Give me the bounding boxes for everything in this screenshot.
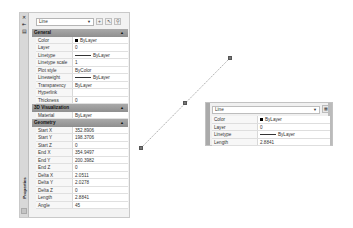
chevron-down-icon: ▼ [313, 107, 317, 113]
prop-row-linetype[interactable]: LinetypeByLayer [36, 52, 128, 60]
palette-settings-icon[interactable] [21, 208, 27, 214]
prop-value: 2.8841 [73, 194, 128, 201]
prop-row-start-x[interactable]: Start X352.8906 [36, 127, 128, 135]
prop-key: Start X [36, 127, 73, 134]
prop-row-material[interactable]: MaterialByLayer [36, 112, 128, 120]
prop-row-end-x[interactable]: End X354.9497 [36, 149, 128, 157]
line-midpoint-grip[interactable] [183, 101, 187, 105]
prop-value: 0 [73, 164, 128, 171]
prop-key: Plot style [36, 67, 73, 74]
lineweight-preview [75, 77, 91, 78]
prop-row-angle[interactable]: Angle45 [36, 202, 128, 210]
prop-row-hyperlink[interactable]: Hyperlink [36, 89, 128, 97]
prop-value: 352.8906 [73, 127, 128, 134]
quick-object-type-value: Line [215, 107, 224, 112]
prop-value: 2.0511 [73, 172, 128, 179]
prop-key: Delta Y [36, 179, 73, 186]
prop-key: End Y [36, 157, 73, 164]
collapse-icon: ▲ [120, 29, 124, 37]
prop-key: End Z [36, 164, 73, 171]
prop-value: 0 [73, 44, 128, 51]
quick-row-color[interactable]: ColorByLayer [212, 116, 330, 124]
prop-value: ByLayer [93, 75, 110, 80]
select-objects-icon[interactable]: ↖ [105, 18, 112, 25]
prop-row-length[interactable]: Length2.8841 [36, 194, 128, 202]
prop-row-thickness[interactable]: Thickness0 [36, 97, 128, 105]
object-type-value: Line [39, 19, 48, 24]
prop-value: 2.8841 [258, 139, 330, 146]
section-3d-visualization[interactable]: 3D Visualization▲ [32, 104, 128, 112]
prop-key: Transparency [36, 82, 73, 89]
prop-row-start-z[interactable]: Start Z0 [36, 142, 128, 150]
prop-key: Start Y [36, 134, 73, 141]
prop-row-color[interactable]: ColorByLayer [36, 37, 128, 45]
section-general[interactable]: General▲ [32, 29, 128, 37]
object-type-select[interactable]: Line ▼ [36, 18, 94, 26]
palette-title-strip[interactable]: ✕ ⇤ ▤ Properties [20, 13, 29, 217]
color-swatch [75, 39, 78, 42]
prop-value: 200.3982 [73, 157, 128, 164]
prop-value: ByLayer [73, 82, 128, 89]
prop-key: Hyperlink [36, 89, 73, 96]
prop-row-transparency[interactable]: TransparencyByLayer [36, 82, 128, 90]
prop-value: ByLayer [93, 53, 110, 58]
prop-row-plot-style[interactable]: Plot styleByColor [36, 67, 128, 75]
prop-value: 0 [258, 124, 330, 131]
quick-select-icon[interactable]: ⚲ [114, 18, 121, 25]
prop-key: Length [36, 194, 73, 201]
prop-value: 45 [73, 202, 128, 209]
linetype-preview [75, 55, 91, 56]
prop-row-end-z[interactable]: End Z0 [36, 164, 128, 172]
prop-value: ByLayer [73, 112, 128, 119]
prop-row-lineweight[interactable]: LineweightByLayer [36, 74, 128, 82]
prop-row-start-y[interactable]: Start Y198.3706 [36, 134, 128, 142]
prop-key: Color [36, 37, 73, 44]
prop-key: Delta X [36, 172, 73, 179]
prop-value: 198.3706 [73, 134, 128, 141]
quick-panel-grip-strip[interactable] [206, 103, 210, 145]
line-start-grip[interactable] [139, 146, 143, 150]
prop-value: ByColor [73, 67, 128, 74]
properties-menu-icon[interactable]: ▤ [21, 29, 27, 34]
prop-value: 1 [73, 59, 128, 66]
prop-key: Color [212, 116, 258, 123]
prop-key: Linetype scale [36, 59, 73, 66]
toggle-pickadd-icon[interactable]: + [96, 18, 103, 25]
prop-row-layer[interactable]: Layer0 [36, 44, 128, 52]
properties-palette: ✕ ⇤ ▤ Properties Line ▼ + ↖ ⚲ General▲ C… [19, 12, 130, 218]
prop-key: Angle [36, 202, 73, 209]
prop-value: 354.9497 [73, 149, 128, 156]
prop-row-delta-x[interactable]: Delta X2.0511 [36, 172, 128, 180]
prop-key: Length [212, 139, 258, 146]
prop-value: ByLayer [278, 132, 295, 137]
prop-row-delta-y[interactable]: Delta Y2.0278 [36, 179, 128, 187]
prop-row-linetype-scale[interactable]: Linetype scale1 [36, 59, 128, 67]
prop-key: Material [36, 112, 73, 119]
prop-key: Linetype [212, 131, 258, 138]
quick-row-linetype[interactable]: LinetypeByLayer [212, 131, 330, 139]
quick-row-length[interactable]: Length2.8841 [212, 139, 330, 147]
prop-key: Layer [212, 124, 258, 131]
prop-key: Layer [36, 44, 73, 51]
linetype-preview [260, 134, 276, 135]
quick-properties-panel: Line ▼ ▦ ColorByLayer Layer0 LinetypeByL… [205, 102, 333, 146]
prop-key: Linetype [36, 52, 73, 59]
collapse-icon: ▲ [120, 104, 124, 112]
section-geometry[interactable]: Geometry▲ [32, 119, 128, 127]
prop-row-delta-z[interactable]: Delta Z0 [36, 187, 128, 195]
prop-value: ByLayer [265, 117, 282, 122]
prop-key: Start Z [36, 142, 73, 149]
prop-key: Delta Z [36, 187, 73, 194]
prop-key: Lineweight [36, 74, 73, 81]
quick-object-type-select[interactable]: Line ▼ [212, 106, 320, 114]
close-icon[interactable]: ✕ [21, 15, 27, 20]
prop-key: End X [36, 149, 73, 156]
prop-row-end-y[interactable]: End Y200.3982 [36, 157, 128, 165]
prop-value: ByLayer [80, 38, 97, 43]
auto-hide-icon[interactable]: ⇤ [21, 22, 27, 27]
prop-key: Thickness [36, 97, 73, 104]
line-end-grip[interactable] [228, 56, 232, 60]
color-swatch [260, 118, 263, 121]
quick-row-layer[interactable]: Layer0 [212, 124, 330, 132]
palette-title: Properties [20, 173, 28, 203]
